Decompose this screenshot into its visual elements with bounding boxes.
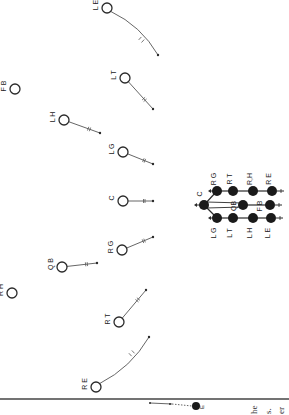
formation-label-fb: F B (256, 200, 263, 211)
page-text-fragment-2: s. (263, 408, 273, 414)
formation-link (206, 207, 243, 208)
formation-label-lh: L H (246, 228, 253, 239)
legend-solid-line (150, 403, 172, 404)
formation-dot-c-icon (199, 200, 209, 210)
player-le-circle-icon (102, 3, 112, 13)
route-line-lg (128, 154, 153, 164)
arrowhead-icon (208, 216, 211, 220)
route-line-qb (67, 263, 97, 266)
player-lh-circle-icon (59, 115, 69, 125)
player-re-circle-icon (91, 382, 101, 392)
route-end-arrow-icon (145, 289, 147, 291)
player-lt-circle-icon (120, 73, 130, 83)
arrowhead-icon (208, 189, 211, 193)
legend-label: E (199, 405, 205, 409)
formation-dot-qb-icon (238, 200, 248, 210)
player-rt-label: R T (104, 313, 111, 325)
player-le-label: L E (92, 0, 99, 10)
route-line-rt (122, 290, 146, 318)
route-line-lh (69, 122, 100, 133)
formation-dot-re-icon (267, 186, 277, 196)
formation-label-qb: QB (230, 201, 238, 211)
player-c-label: C (108, 195, 115, 200)
arrowhead-icon (194, 203, 197, 207)
legend-mid-icon (169, 403, 171, 405)
formation-label-c: C (196, 191, 203, 196)
player-rh-circle-icon (7, 288, 17, 298)
legend-dotted-line (172, 404, 192, 406)
player-rg-circle-icon (117, 245, 127, 255)
formation-dot-rt-icon (228, 186, 238, 196)
formation-dot-lg-icon (212, 213, 222, 223)
route-end-arrow-icon (96, 262, 98, 264)
formation-label-rh: R,H (246, 173, 253, 185)
formation-label-re: R E (265, 173, 272, 185)
formation-dot-lt-icon (228, 213, 238, 223)
formation-label-rg: R G (210, 173, 217, 185)
player-re-label: R E (81, 378, 88, 390)
path-tick-mark (129, 353, 132, 356)
player-rt-circle-icon (114, 317, 124, 327)
route-end-arrow-icon (99, 132, 101, 134)
route-end-arrow-icon (148, 336, 150, 338)
path-tick-mark (132, 350, 135, 353)
player-lg-label: L G (108, 143, 115, 154)
path-tick-mark (142, 40, 145, 43)
route-end-arrow-icon (157, 54, 159, 56)
formation-dot-fb-icon (265, 200, 275, 210)
formation-label-lt: L T (226, 227, 233, 237)
formation-dot-lh-icon (248, 213, 258, 223)
formation-dot-le-icon (266, 213, 276, 223)
player-lh-label: L H (49, 112, 56, 123)
player-c-circle-icon (118, 196, 128, 206)
formation-dot-rg-icon (212, 186, 222, 196)
route-end-arrow-icon (152, 200, 154, 202)
player-rg-label: R G (107, 241, 114, 253)
formation-label-rt: R T (226, 173, 233, 185)
route-line-re (100, 337, 149, 384)
page-text-fragment-1: he (249, 406, 259, 415)
formation-label-lg: L G (210, 227, 217, 238)
play-diagram: L EL TF BL HL GCR GQ BR HR TR ER GR TR,H… (0, 0, 289, 415)
page-text-fragment-3: er (276, 407, 286, 414)
player-lg-circle-icon (118, 147, 128, 157)
formation-label-le: L E (264, 228, 271, 239)
formation-dot-rh-icon (248, 186, 258, 196)
path-tick-mark (139, 37, 142, 40)
route-end-arrow-icon (152, 236, 154, 238)
diagram-canvas: L EL TF BL HL GCR GQ BR HR TR ER GR TR,H… (0, 0, 289, 415)
player-qb-circle-icon (57, 262, 67, 272)
route-line-rg (127, 237, 153, 248)
formation-link (206, 202, 243, 203)
player-fb-circle-icon (10, 84, 20, 94)
player-qb-label: Q B (47, 258, 55, 270)
legend-end-icon (149, 402, 151, 404)
route-line-le (111, 11, 158, 55)
route-line-lt (128, 82, 153, 109)
player-rh-label: R H (0, 284, 4, 296)
player-fb-label: F B (0, 80, 7, 91)
route-end-arrow-icon (152, 163, 154, 165)
player-lt-label: L T (110, 69, 117, 79)
route-end-arrow-icon (152, 108, 154, 110)
